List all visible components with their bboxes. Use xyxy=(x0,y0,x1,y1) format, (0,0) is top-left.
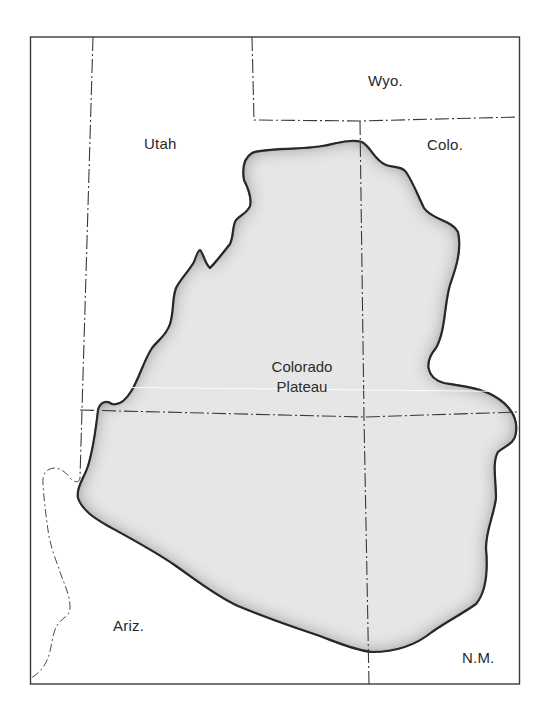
plateau-label-line1: Colorado xyxy=(252,357,352,377)
nevada-utah-border xyxy=(80,37,93,478)
state-label-new-mexico: N.M. xyxy=(462,650,494,666)
state-label-wyoming: Wyo. xyxy=(368,73,403,89)
state-label-colorado: Colo. xyxy=(427,137,463,153)
state-label-arizona: Ariz. xyxy=(113,618,144,634)
plateau-label-line2: Plateau xyxy=(252,377,352,397)
colorado-plateau-map: Utah Wyo. Colo. Ariz. N.M. Colorado Plat… xyxy=(0,0,548,718)
plateau-label: Colorado Plateau xyxy=(252,357,352,397)
state-label-utah: Utah xyxy=(144,136,177,152)
arizona-nevada-river-border xyxy=(31,468,80,678)
